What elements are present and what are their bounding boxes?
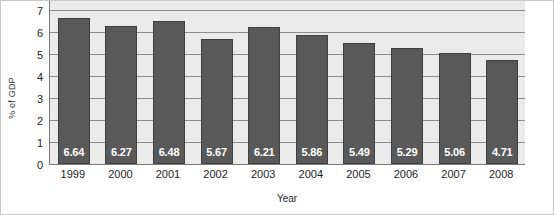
bar[interactable]: 5.06 [439,53,471,164]
y-axis-tick-label: 1 [25,137,43,148]
bar-value-label: 5.49 [344,147,374,158]
plot-area: 6.646.276.485.676.215.865.495.295.064.71 [49,1,525,165]
bar-value-label: 6.27 [106,147,136,158]
bar[interactable]: 5.49 [343,43,375,164]
bar-value-label: 6.64 [59,147,89,158]
y-axis-tick-label: 2 [25,115,43,126]
x-axis-tick-label: 2004 [287,169,335,180]
bar-chart-figure: % of GDP 01234567 6.646.276.485.676.215.… [0,0,554,215]
bar-value-label: 6.21 [249,147,279,158]
bar[interactable]: 5.67 [201,39,233,164]
x-axis-title: Year [49,194,525,204]
y-axis-tick-label: 4 [25,71,43,82]
y-axis-tick-label: 6 [25,27,43,38]
bar[interactable]: 5.29 [391,48,423,164]
bar[interactable]: 5.86 [296,35,328,164]
bar-value-label: 5.06 [440,147,470,158]
y-axis-title: % of GDP [3,53,21,143]
x-axis-tick-label: 2000 [97,169,145,180]
bar-value-label: 6.48 [154,147,184,158]
y-axis-tick-label: 5 [25,49,43,60]
bar-value-label: 5.67 [202,147,232,158]
bar[interactable]: 6.64 [58,18,90,164]
y-axis-tick-label: 3 [25,93,43,104]
y-axis-tick-label: 7 [25,5,43,16]
bar[interactable]: 6.21 [248,27,280,164]
bar[interactable]: 4.71 [486,60,518,164]
bar-value-label: 5.86 [297,147,327,158]
x-axis-tick-label: 2007 [430,169,478,180]
x-axis-tick-label: 2008 [477,169,525,180]
y-axis-tick-labels: 01234567 [25,1,43,165]
x-axis-tick-label: 2002 [192,169,240,180]
x-axis-tick-label: 2005 [335,169,383,180]
x-axis-tick-label: 2006 [382,169,430,180]
x-axis-tick-labels: 1999200020012002200320042005200620072008 [49,169,525,185]
bar-series: 6.646.276.485.676.215.865.495.295.064.71 [50,1,525,164]
bar[interactable]: 6.27 [105,26,137,164]
y-axis-title-label: % of GDP [7,77,17,119]
x-axis-tick-label: 1999 [49,169,97,180]
bar-value-label: 4.71 [487,147,517,158]
x-axis-tick-label: 2001 [144,169,192,180]
y-axis-tick-label: 0 [25,160,43,171]
bar-value-label: 5.29 [392,147,422,158]
x-axis-tick-label: 2003 [239,169,287,180]
bar[interactable]: 6.48 [153,21,185,164]
